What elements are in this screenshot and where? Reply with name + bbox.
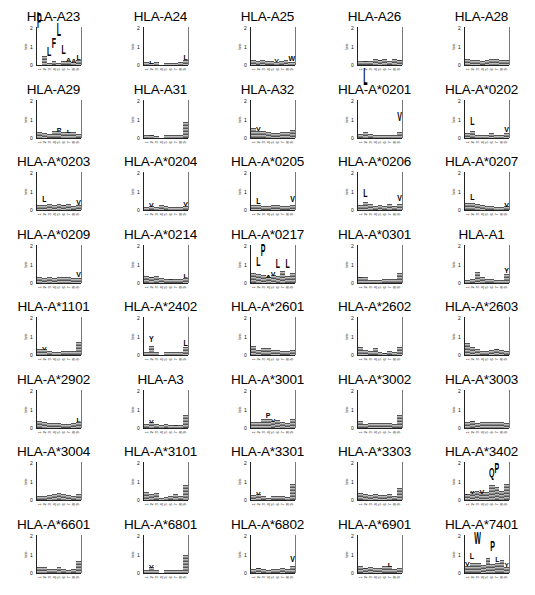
position-column <box>183 415 188 427</box>
x-tick-labels: 123456789 <box>251 502 294 507</box>
logo-panel: HLA-A*0201210bitsLV123456789 <box>321 73 428 145</box>
y-axis-label: bits <box>237 116 242 122</box>
y-axis-label: bits <box>23 43 28 49</box>
panel-title: HLA-A25 <box>214 10 321 24</box>
y-tick-label: 1 <box>30 335 33 340</box>
x-axis-line <box>36 355 81 356</box>
x-tick-label: 9 <box>182 286 187 288</box>
y-tick-label: 2 <box>244 171 247 176</box>
y-tick-label: 1 <box>137 408 140 413</box>
x-axis-line <box>143 283 188 284</box>
logo-plot-area: VL <box>357 535 403 573</box>
x-axis-line <box>250 573 295 574</box>
y-axis-label: bits <box>344 261 349 267</box>
residue-letter: L <box>183 274 187 278</box>
y-axis-label: bits <box>344 116 349 122</box>
x-tick-label: 9 <box>75 358 80 360</box>
logo-plot-area <box>36 535 82 573</box>
x-tick-labels: 123456789 <box>465 285 508 290</box>
residue-letter: V <box>504 127 509 133</box>
x-axis-line <box>250 500 295 501</box>
x-axis-line <box>36 210 81 211</box>
y-axis-label: bits <box>130 551 135 557</box>
panel-title: HLA-A24 <box>107 10 214 24</box>
residue-letter: V <box>149 565 154 566</box>
logo-plot-area: V <box>357 245 403 283</box>
panel-title: HLA-A32 <box>214 83 321 97</box>
logo-panel: HLA-A*2602210bitsV123456789 <box>321 290 428 362</box>
panel-title: HLA-A*0203 <box>0 155 107 169</box>
y-tick-label: 1 <box>244 118 247 123</box>
y-tick-label: 2 <box>458 99 461 104</box>
y-tick-label: 0 <box>351 208 354 213</box>
logo-panel: HLA-A32210bitsV123456789 <box>214 73 321 145</box>
position-column <box>504 484 509 500</box>
y-tick-label: 1 <box>458 118 461 123</box>
y-axis-label: bits <box>344 43 349 49</box>
x-tick-label: 9 <box>396 503 401 505</box>
y-tick-label: 1 <box>137 480 140 485</box>
y-tick-label: 2 <box>137 316 140 321</box>
y-tick-label: 0 <box>137 208 140 213</box>
panel-title: HLA-A31 <box>107 83 214 97</box>
x-axis-line <box>250 283 295 284</box>
panel-title: HLA-A*3303 <box>321 445 428 459</box>
logo-plot-area: V <box>464 317 510 355</box>
residue-letter: V <box>397 112 402 132</box>
residue-letter: V <box>149 204 154 207</box>
y-axis-label: bits <box>237 333 242 339</box>
x-tick-labels: 123456789 <box>358 357 401 362</box>
x-tick-labels: 123456789 <box>37 502 80 507</box>
y-tick-label: 0 <box>458 281 461 286</box>
x-axis-line <box>143 573 188 574</box>
panel-title: HLA-A*0206 <box>321 155 428 169</box>
x-tick-label: 9 <box>289 68 294 70</box>
panel-title: HLA-A*3004 <box>0 445 107 459</box>
x-axis-line <box>250 138 295 139</box>
residue-letter: V <box>42 348 47 349</box>
logo-plot-area: VVV <box>357 27 403 65</box>
logo-plot-area: LVV <box>36 172 82 210</box>
y-axis-label: bits <box>23 188 28 194</box>
x-axis-line <box>143 500 188 501</box>
y-tick-label: 2 <box>30 461 33 466</box>
position-column: Y <box>504 268 509 282</box>
y-tick-label: 0 <box>30 571 33 576</box>
y-tick-label: 0 <box>137 353 140 358</box>
y-tick-label: 1 <box>137 335 140 340</box>
logo-panel: HLA-A*0214210bitsVVL123456789 <box>107 218 214 290</box>
y-axis-label: bits <box>344 188 349 194</box>
panel-title: HLA-A23 <box>0 10 107 24</box>
x-axis-line <box>357 138 402 139</box>
y-tick-label: 2 <box>458 534 461 539</box>
y-tick-label: 0 <box>351 281 354 286</box>
x-axis-line <box>357 500 402 501</box>
y-tick-label: 2 <box>244 244 247 249</box>
logo-panel: HLA-A*0204210bitsVV123456789 <box>107 145 214 217</box>
x-tick-label: 9 <box>289 503 294 505</box>
logo-panel: HLA-A*6801210bitsV123456789 <box>107 508 214 580</box>
position-column: V <box>76 272 81 282</box>
y-tick-label: 1 <box>137 45 140 50</box>
y-axis-label: bits <box>451 116 456 122</box>
x-tick-label: 9 <box>182 576 187 578</box>
x-tick-labels: 123456789 <box>465 357 508 362</box>
y-tick-label: 1 <box>137 553 140 558</box>
x-tick-label: 9 <box>396 68 401 70</box>
x-tick-label: 9 <box>503 141 508 143</box>
y-tick-label: 1 <box>351 408 354 413</box>
panel-title: HLA-A*0301 <box>321 228 428 242</box>
y-tick-label: 0 <box>244 353 247 358</box>
y-axis-label: bits <box>451 551 456 557</box>
position-column: V <box>504 127 509 137</box>
logo-panel: HLA-A25210bitsVW123456789 <box>214 0 321 72</box>
y-tick-label: 0 <box>30 353 33 358</box>
position-column: V <box>504 202 509 210</box>
logo-plot-area: LV <box>357 100 403 138</box>
y-tick-label: 2 <box>351 171 354 176</box>
panel-title: HLA-A26 <box>321 10 428 24</box>
logo-plot-area <box>36 462 82 500</box>
x-tick-label: 9 <box>289 141 294 143</box>
y-tick-label: 1 <box>458 45 461 50</box>
y-axis-label: bits <box>344 551 349 557</box>
